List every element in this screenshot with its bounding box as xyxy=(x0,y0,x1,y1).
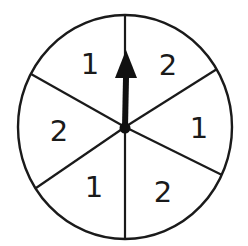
sector-label: 2 xyxy=(50,114,68,148)
arrow-shaft xyxy=(125,78,126,127)
sector-label: 1 xyxy=(190,111,208,145)
sector-label: 1 xyxy=(85,170,103,204)
sector-label: 2 xyxy=(154,175,172,209)
spinner: 1 2 1 2 1 2 xyxy=(0,0,248,246)
spinner-hub xyxy=(120,123,131,134)
sector-label: 1 xyxy=(81,47,99,81)
sector-label: 2 xyxy=(159,48,177,82)
